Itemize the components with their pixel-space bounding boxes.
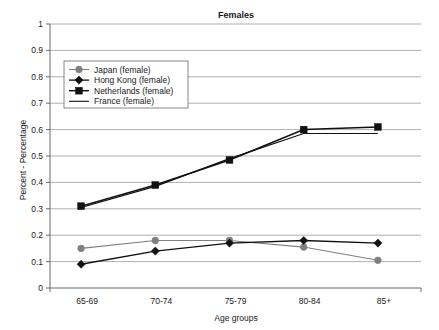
x-axis-title: Age groups [214,313,257,323]
x-tick-label: 80-84 [299,296,321,306]
data-point-marker [76,87,83,94]
x-tick-labels: 65-6970-7475-7980-8485+ [76,296,391,306]
data-point-marker [300,236,308,244]
data-point-marker [78,245,85,252]
y-tick-label: 0.5 [31,151,43,161]
x-tick-label: 85+ [377,296,391,306]
x-tick-label: 65-69 [76,296,98,306]
legend-label: Hong Kong (female) [94,75,170,85]
y-tick-label: 0.7 [31,98,43,108]
data-point-marker [375,124,382,131]
series-france-female [81,134,378,208]
line-chart: 00.10.20.30.40.50.60.70.80.91 65-6970-74… [0,0,439,330]
data-point-marker [151,247,159,255]
y-tick-label: 0.6 [31,125,43,135]
series-line [81,134,378,208]
x-axis [50,288,421,292]
y-tick-label: 0.8 [31,72,43,82]
y-tick-label: 0.9 [31,45,43,55]
data-point-marker [374,239,382,247]
x-tick-label: 75-79 [225,296,247,306]
y-tick-label: 0.2 [31,230,43,240]
y-tick-label: 0.4 [31,177,43,187]
y-axis-title: Percent - Percentage [18,120,28,201]
y-tick-label: 0.3 [31,204,43,214]
legend: Japan (female)Hong Kong (female)Netherla… [64,61,188,108]
data-point-marker [300,126,307,133]
chart-container: 00.10.20.30.40.50.60.70.80.91 65-6970-74… [0,0,439,330]
y-tick-label: 0.1 [31,257,43,267]
y-tick-labels: 00.10.20.30.40.50.60.70.80.91 [31,19,43,293]
data-point-marker [76,66,83,73]
data-point-marker [375,257,382,264]
chart-title: Females [218,10,254,20]
series-netherlands-female [78,124,382,210]
legend-label: Netherlands (female) [94,86,174,96]
x-tick-label: 70-74 [150,296,172,306]
y-axis [46,24,50,288]
series-group [77,124,382,269]
data-point-marker [78,203,85,210]
legend-label: Japan (female) [94,65,151,75]
gridlines-group [50,24,421,262]
legend-label: France (female) [94,96,154,106]
data-point-marker [152,237,159,244]
y-tick-label: 1 [38,19,43,29]
y-tick-label: 0 [38,283,43,293]
